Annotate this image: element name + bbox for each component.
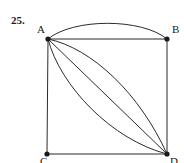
figure-container: 25. A B C D — [0, 0, 184, 163]
vertex-label-c: C — [40, 155, 47, 163]
vertex-d — [164, 151, 169, 156]
vertex-label-a: A — [37, 23, 45, 35]
vertex-label-b: B — [172, 23, 179, 35]
vertex-a — [45, 36, 50, 41]
edges-group — [47, 23, 167, 154]
vertex-b — [164, 36, 169, 41]
edge-ad-straight-diagonal — [48, 39, 167, 154]
edge-ac-left-side — [47, 39, 48, 154]
edge-ab-arc — [48, 23, 167, 39]
vertex-label-d: D — [170, 155, 178, 163]
graph-diagram — [0, 0, 184, 163]
